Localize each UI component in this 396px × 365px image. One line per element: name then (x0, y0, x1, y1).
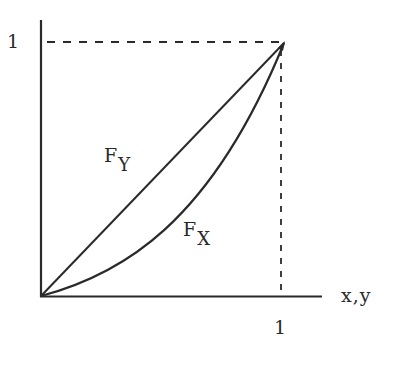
diagram-canvas (0, 0, 396, 365)
curve-label-fy-main: F (104, 144, 117, 166)
y-tick-label-1: 1 (7, 32, 19, 51)
diagram: 1 1 x,y FY FX (0, 0, 396, 365)
curve-label-fx-sub: X (197, 228, 210, 249)
x-tick-label-1: 1 (274, 318, 286, 337)
curve-label-fx: FX (183, 220, 210, 239)
curve-label-fx-main: F (183, 218, 196, 240)
x-axis-label: x,y (341, 286, 372, 305)
curve-label-fy: FY (104, 146, 130, 165)
curve-fy (41, 43, 284, 296)
curve-label-fy-sub: Y (118, 154, 130, 175)
